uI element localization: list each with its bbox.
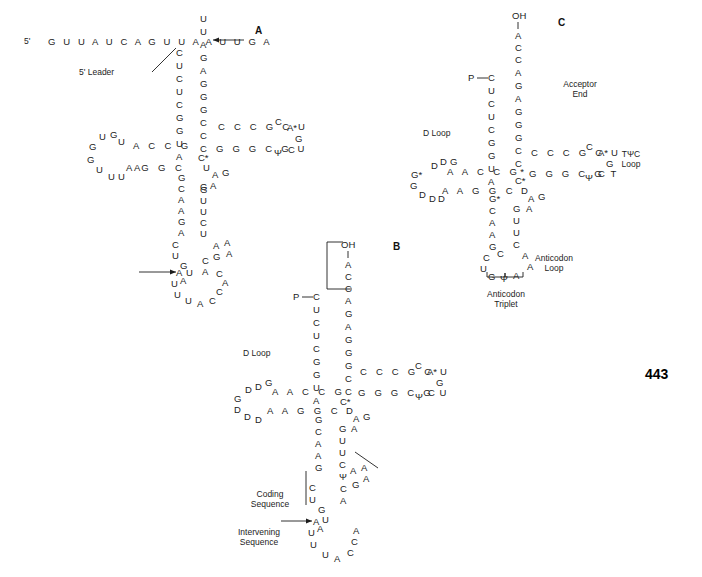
panel-a-tpsi-loop-0: C bbox=[275, 117, 282, 127]
panel-c-ac-loop-6: Ψ bbox=[500, 274, 508, 284]
panel-b-ac-lower-left-1: U bbox=[309, 495, 316, 505]
panel-a-dloop-letter-8: U bbox=[118, 172, 125, 182]
panel-a-ac-left-1: C bbox=[178, 184, 185, 194]
panel-c-dloop-label: D Loop bbox=[423, 128, 450, 138]
panel-a-ac-left-4: G bbox=[178, 217, 185, 227]
panel-b-dloop-bottom-stem: A A G G C bbox=[267, 406, 341, 416]
panel-a-bottom-1: U bbox=[171, 279, 178, 289]
panel-b-acceptor-left-5: G bbox=[313, 357, 320, 367]
panel-b-hinge-4: A bbox=[351, 424, 357, 434]
panel-b-bottom-5: C bbox=[347, 548, 354, 558]
panel-a-dloop-top-stem: A C C G bbox=[133, 141, 192, 151]
panel-a-acceptor-left-1: U bbox=[176, 61, 183, 71]
panel-b-bottom-0: A bbox=[313, 517, 319, 527]
panel-c-ac-left-2: A bbox=[489, 218, 495, 228]
panel-a-dloop-letter-7: U bbox=[108, 172, 115, 182]
panel-b-acceptor-tail-2: C bbox=[345, 284, 352, 294]
panel-b-ac-lower-left-0: C bbox=[309, 483, 316, 493]
panel-a-acceptor-right-0: A bbox=[200, 40, 206, 50]
panel-b-ac-loop-0: A bbox=[350, 466, 356, 476]
panel-b-ac-right-4: Ψ bbox=[339, 472, 347, 482]
panel-c-dloop-bottom-stem: A A G G C bbox=[442, 186, 516, 196]
panel-b-ac-left-0: G bbox=[315, 415, 322, 425]
panel-a-acceptor-left-8: A bbox=[176, 152, 182, 162]
panel-b-ac-left-2: A bbox=[315, 439, 321, 449]
panel-c-dloop-letter-3: G* bbox=[411, 170, 422, 180]
panel-b-acceptor-right-4: G bbox=[345, 348, 352, 358]
panel-a-ac-right-2: U bbox=[200, 207, 207, 217]
panel-a-ac-lower-right-2: A bbox=[226, 249, 232, 259]
panel-b-phosphate-label: P bbox=[293, 292, 299, 302]
panel-c-acceptor-right-3: G bbox=[515, 107, 522, 117]
panel-b-bottom-7: A bbox=[353, 526, 359, 536]
panel-c-tpsi-loop-0: C bbox=[586, 142, 593, 152]
panel-c-ac-left-0: G* bbox=[489, 194, 500, 204]
panel-a-acceptor-left-5: G bbox=[176, 113, 183, 123]
panel-b-ac-left-1: C bbox=[315, 427, 322, 437]
panel-a-acceptor-left-2: C bbox=[176, 74, 183, 84]
panel-a-ac-left-2: A bbox=[178, 195, 184, 205]
panel-b-tpsi-loop-1: A* bbox=[427, 367, 437, 377]
panel-a-dloop-letter-6: U bbox=[96, 165, 103, 175]
panel-b-acceptor-right-1: G bbox=[345, 309, 352, 319]
panel-c-dloop-letter-1: D bbox=[440, 157, 447, 167]
panel-a-bottom-3: U bbox=[185, 296, 192, 306]
panel-b-acceptor-right-0: A bbox=[345, 296, 351, 306]
panel-b-acceptor-right-3: G bbox=[345, 335, 352, 345]
panel-c-acceptor-left-0: C bbox=[488, 73, 495, 83]
panel-a-ac-right-0: G bbox=[200, 185, 207, 195]
panel-b-ac-loop-4: C bbox=[340, 484, 347, 494]
page-number: 443 bbox=[645, 366, 668, 382]
panel-a-acceptor-left-3: U bbox=[176, 87, 183, 97]
panel-a-acceptor-right-2: A bbox=[200, 66, 206, 76]
panel-c-tpsi-loop-2: G bbox=[606, 159, 613, 169]
panel-b-acceptor-right-5: G bbox=[345, 361, 352, 371]
panel-c-acceptor-end-label: Acceptor End bbox=[549, 79, 611, 99]
panel-c-acceptor-left-3: U bbox=[488, 112, 495, 122]
panel-a-ac-left-5: A bbox=[178, 228, 184, 238]
panel-b-bottom-3: U bbox=[322, 550, 329, 560]
panel-c-dloop-letter-5: D bbox=[419, 190, 426, 200]
panel-c-tpsi-bottom-strand: G G G C G T bbox=[529, 169, 619, 179]
panel-b-dloop-top-stem: A A C C G bbox=[272, 387, 345, 397]
panel-a-hinge-1: U bbox=[203, 163, 210, 173]
panel-c-acceptor-oh: OH bbox=[512, 11, 526, 21]
panel-c-phosphate-label: P bbox=[468, 73, 474, 83]
panel-a-acceptor-right-6: C bbox=[200, 118, 207, 128]
panel-c-acceptor-left-4: C bbox=[488, 125, 495, 135]
panel-a-dloop-letter-2: U bbox=[99, 132, 106, 142]
panel-b-ac-right-1: U bbox=[339, 436, 346, 446]
panel-b-acceptor-left-6: G bbox=[313, 370, 320, 380]
panel-b-acceptor-oh: OH bbox=[341, 240, 355, 250]
panel-b-ac-loop-3: G bbox=[352, 480, 359, 490]
panel-b-ac-right-2: U bbox=[339, 448, 346, 458]
panel-b-acceptor-left-1: U bbox=[313, 305, 320, 315]
panel-b-acceptor-left-0: C bbox=[313, 292, 320, 302]
panel-c-ac-left-3: A bbox=[489, 230, 495, 240]
panel-a-tpsi-loop-2: G bbox=[295, 134, 302, 144]
panel-a-ac-lower-right-4: C bbox=[202, 256, 209, 266]
panel-a-dloop-letter-4: G bbox=[89, 142, 96, 152]
panel-b-intervening-sequence-label: Intervening Sequence bbox=[212, 527, 306, 547]
panel-a-ac-lower-right-0: A bbox=[213, 241, 219, 251]
panel-a-leader-sequence: G U U A U C A G U U A A U U G A bbox=[48, 36, 272, 47]
panel-c-ac-loop-7: A bbox=[513, 271, 519, 281]
panel-b-acceptor-right-2: A bbox=[345, 322, 351, 332]
panel-a-acceptor-tail-1: U bbox=[200, 27, 207, 37]
panel-a-ac-lower-left-3: U bbox=[186, 268, 193, 278]
panel-c-ac-left-1: C bbox=[489, 206, 496, 216]
panel-c-acceptor-left-5: G bbox=[488, 138, 495, 148]
panel-a-dloop-letter-5: G bbox=[87, 155, 94, 165]
panel-a-hinge-2: A bbox=[212, 170, 218, 180]
panel-c-ac-right-2: U bbox=[513, 228, 520, 238]
panel-a-acceptor-right-4: G bbox=[200, 92, 207, 102]
panel-a-bottom-4: A bbox=[197, 299, 203, 309]
panel-a-acceptor-right-7: C bbox=[200, 131, 207, 141]
panel-a-ac-right-1: U bbox=[200, 196, 207, 206]
panel-b-dloop-letter-7: D bbox=[255, 415, 262, 425]
panel-c-acceptor-tail-1: C bbox=[515, 43, 522, 53]
panel-b-ac-left-3: A bbox=[315, 451, 321, 461]
panel-c-dloop-letter-7: D bbox=[438, 194, 445, 204]
panel-a-ac-lower-right-1: A bbox=[224, 238, 230, 248]
panel-b-coding-sequence-label: Coding Sequence bbox=[234, 489, 306, 509]
